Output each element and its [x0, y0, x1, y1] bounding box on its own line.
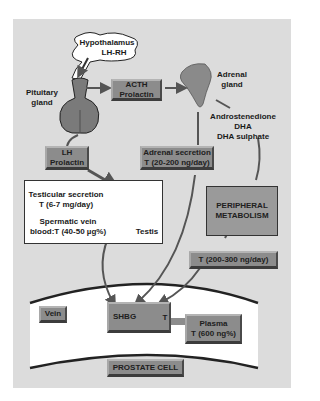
vein-text: Vein: [45, 309, 61, 319]
adrenal-secretion-box: Adrenal secretion T (20-200 ng/day): [140, 146, 214, 170]
spermatic-vein-text: Spermatic vein: [40, 217, 97, 226]
dha-sulphate-text: DHA sulphate: [217, 132, 269, 141]
shbg-t-label: T: [160, 313, 170, 323]
acth-prolactin-box: ACTH Prolactin: [111, 79, 162, 101]
pituitary-shape: [60, 78, 99, 133]
plasma-value: T (600 ng%): [191, 329, 236, 339]
hypothalamus-label: Hypothalamus LH-RH: [77, 38, 137, 58]
adrenal-text: Adrenal: [217, 70, 247, 79]
adrenal-secretion-text: Adrenal secretion: [143, 148, 211, 158]
adrenal-secretion-value: T (20-200 ng/day): [144, 158, 209, 168]
testicular-secretion-value: T (6-7 mg/day): [39, 200, 93, 209]
plasma-box: Plasma T (600 ng%): [185, 314, 242, 344]
peripheral-metabolism-box: PERIPHERAL METABOLISM: [206, 186, 278, 236]
vein-box: Vein: [39, 306, 67, 323]
prostate-cell-box: PROSTATE CELL: [107, 359, 184, 377]
pituitary-text: Pituitary: [26, 88, 58, 97]
peripheral-output-text: T (200-300 ng/day): [199, 255, 269, 265]
plasma-text: Plasma: [199, 319, 227, 329]
spermatic-vein-label: Spermatic vein blood:T (40-50 µg%): [26, 217, 110, 237]
lh-prolactin-text: Prolactin: [50, 158, 84, 168]
prostate-cell-text: PROSTATE CELL: [113, 363, 178, 373]
testicular-secretion-text: Testicular secretion: [29, 190, 104, 199]
adrenal-gland-text: gland: [221, 80, 242, 89]
testicular-secretion-label: Testicular secretion T (6-7 mg/day): [26, 190, 106, 210]
acth-text: ACTH: [125, 80, 147, 90]
gland-text: gland: [31, 98, 52, 107]
adrenal-label: Adrenal gland: [214, 70, 250, 90]
pituitary-label: Pituitary gland: [26, 88, 58, 108]
adrenal-products-label: Androstenedione DHA DHA sulphate: [208, 112, 278, 142]
dha-text: DHA: [234, 122, 251, 131]
lh-rh-text: LH-RH: [102, 48, 127, 57]
adrenal-shape: [180, 64, 211, 107]
androstenedione-text: Androstenedione: [210, 112, 276, 121]
testis-text: Testis: [136, 227, 159, 236]
peripheral-output-box: T (200-300 ng/day): [189, 251, 278, 269]
metabolism-text: METABOLISM: [215, 211, 268, 221]
testis-label: Testis: [134, 227, 160, 237]
acth-prolactin-text: Prolactin: [119, 90, 153, 100]
spermatic-vein-value: blood:T (40-50 µg%): [30, 227, 106, 236]
hypothalamus-text: Hypothalamus: [79, 38, 134, 47]
shbg-t-text: T: [163, 313, 168, 322]
lh-prolactin-box: LH Prolactin: [45, 146, 89, 170]
peripheral-text: PERIPHERAL: [216, 201, 268, 211]
shbg-text: SHBG: [113, 312, 136, 322]
lh-text: LH: [62, 148, 73, 158]
